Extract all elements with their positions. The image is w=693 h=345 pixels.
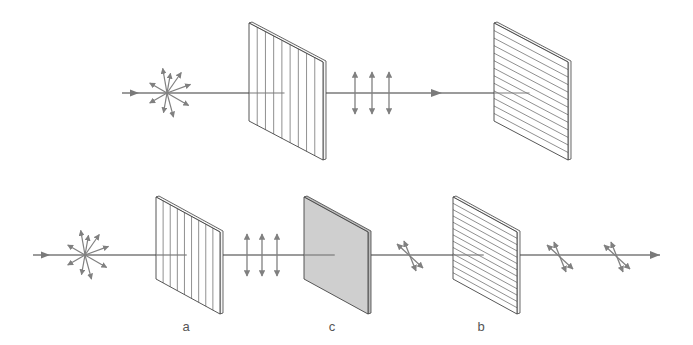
beam-exit-arrow-icon: [650, 251, 660, 259]
vertical-polarizer: [249, 22, 326, 160]
label-polarizer-a: a: [182, 320, 189, 333]
horizontal-polarizer: [494, 22, 571, 160]
diagonal-polarization-icon: [547, 242, 573, 272]
diagonal-polarization-icon: [397, 241, 423, 271]
ray-arrow: [150, 83, 167, 93]
diagonal-polarization-icon: [604, 242, 630, 272]
label-wave-plate-c: c: [329, 320, 336, 333]
beam-direction-icon: [130, 90, 139, 97]
ray-arrow: [68, 255, 85, 265]
ray-arrow: [150, 93, 167, 103]
ray-arrow: [163, 68, 167, 93]
horizontal-polarizer-b: [453, 196, 520, 314]
polarization-diagram: a c b: [0, 0, 693, 345]
ray-arrow: [164, 93, 168, 113]
ray-arrow: [81, 230, 85, 255]
wave-plate-c: [304, 196, 371, 314]
diagram-canvas: [0, 0, 693, 345]
beam-direction-icon: [431, 89, 442, 97]
polarization-arrow: [611, 242, 623, 272]
panel-face: [494, 23, 568, 160]
polarization-arrow: [554, 242, 566, 272]
beam-direction-icon: [41, 252, 50, 259]
vertical-polarizer-a: [156, 196, 223, 314]
light-beam-top: [122, 90, 555, 97]
polarization-arrow: [404, 241, 416, 271]
label-polarizer-b: b: [477, 320, 484, 333]
panel-face: [249, 23, 323, 160]
ray-arrow: [82, 255, 86, 275]
ray-arrow: [68, 245, 85, 255]
